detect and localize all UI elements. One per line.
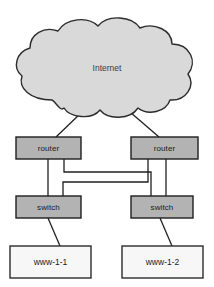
server-left-label: www-1-1 xyxy=(33,257,68,267)
link-router-left-to-switch-right xyxy=(64,159,151,196)
server-right-label: www-1-2 xyxy=(145,257,180,267)
router-left-label: router xyxy=(38,144,60,153)
link-switch-left-to-server-left xyxy=(48,218,60,246)
link-router-right-to-switch-left xyxy=(63,159,148,196)
link-layer xyxy=(48,112,172,246)
link-cloud-to-router-right xyxy=(130,112,159,137)
internet-cloud[interactable]: Internet xyxy=(16,18,192,117)
switch-right[interactable]: switch xyxy=(131,196,193,218)
router-right-label: router xyxy=(154,144,176,153)
router-left[interactable]: router xyxy=(16,137,81,159)
switch-left[interactable]: switch xyxy=(16,196,81,218)
switch-right-label: switch xyxy=(151,203,174,212)
switch-left-label: switch xyxy=(37,203,60,212)
cloud-label: Internet xyxy=(93,63,122,73)
server-right[interactable]: www-1-2 xyxy=(122,246,203,278)
network-diagram-canvas: Internet router router switch switch www… xyxy=(0,0,214,287)
link-switch-right-to-server-right xyxy=(160,218,172,246)
network-diagram: Internet router router switch switch www… xyxy=(0,0,214,287)
server-left[interactable]: www-1-1 xyxy=(10,246,91,278)
router-right[interactable]: router xyxy=(131,137,198,159)
